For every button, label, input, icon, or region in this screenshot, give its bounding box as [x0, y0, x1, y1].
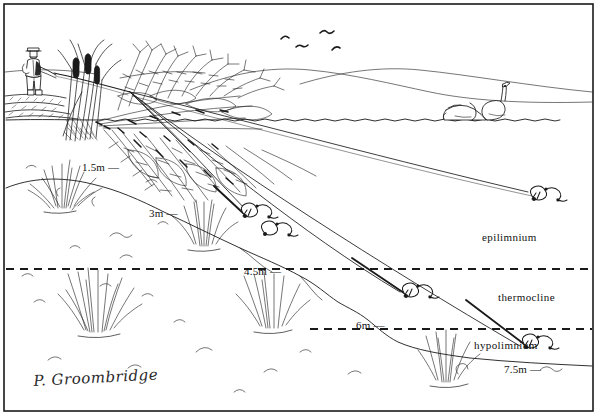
zone-label-epilimnium: epilimnium: [482, 231, 537, 243]
zone-label-thermocline: thermocline: [498, 291, 555, 303]
depth-label-3m: 3m —: [149, 207, 178, 219]
depth-label-4-5m: 4.5m —: [244, 265, 281, 277]
lake-cross-section-drawing: [0, 0, 597, 415]
zone-label-hypolimnium: hypolimnium: [474, 339, 538, 351]
depth-label-6m: 6m —: [356, 319, 385, 331]
depth-label-1-5m: 1.5m —: [82, 161, 119, 173]
illustration-canvas: 1.5m — 3m — 4.5m — 6m — 7.5m — epilimniu…: [0, 0, 597, 415]
depth-label-7-5m: 7.5m —: [504, 363, 541, 375]
